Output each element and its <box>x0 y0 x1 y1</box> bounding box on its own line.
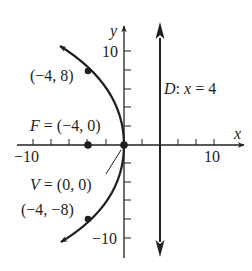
x-tick-label-neg10: −10 <box>14 148 39 165</box>
directrix-top-arrow <box>156 22 165 39</box>
parabola-diagram: x y −10 10 10 −10 (−4, 8) F = (−4, 0) V … <box>0 0 252 271</box>
x-axis-label: x <box>233 125 241 142</box>
point-lower-label: (−4, −8) <box>21 201 74 219</box>
vertex-label: V = (0, 0) <box>30 176 91 194</box>
point-lower-dot <box>85 216 92 223</box>
x-tick-label-10: 10 <box>204 148 220 165</box>
directrix-bottom-arrow <box>156 240 165 257</box>
point-upper-label: (−4, 8) <box>30 67 74 85</box>
vertex-dot <box>120 141 128 149</box>
y-tick-label-10: 10 <box>102 43 118 60</box>
y-axis-label: y <box>108 22 118 40</box>
point-upper-dot <box>85 68 92 75</box>
vertex-pointer <box>106 150 121 174</box>
focus-label: F = (−4, 0) <box>29 117 100 135</box>
graph-canvas: x y −10 10 10 −10 (−4, 8) F = (−4, 0) V … <box>0 0 252 271</box>
x-axis <box>17 139 244 145</box>
focus-dot <box>84 141 92 149</box>
y-tick-label-neg10: −10 <box>92 230 117 247</box>
directrix-label: D: x = 4 <box>163 80 216 97</box>
